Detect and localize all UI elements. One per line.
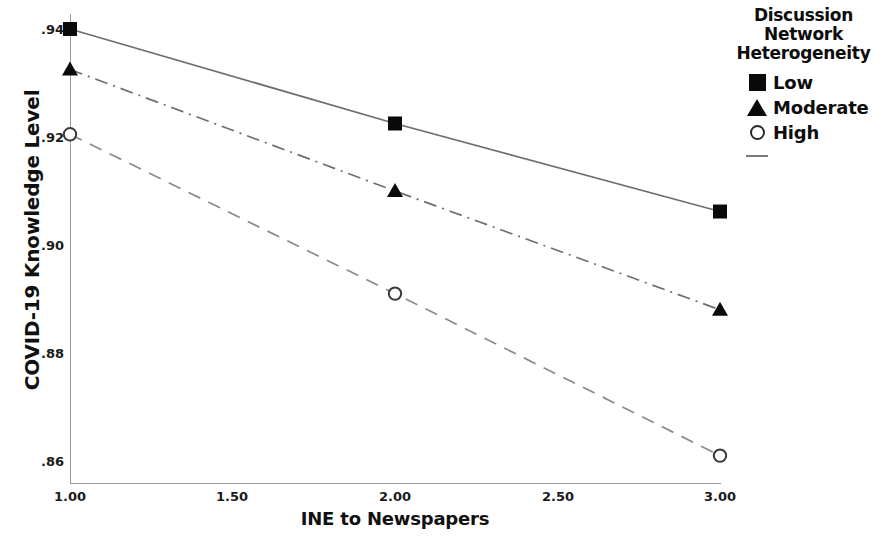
data-point-marker-high — [714, 449, 726, 461]
legend-title-line-3: Heterogeneity — [722, 44, 885, 63]
open-circle-icon — [744, 125, 770, 140]
data-point-marker-moderate — [712, 302, 728, 316]
legend-item-line-sample — [744, 145, 885, 167]
legend-title-line-2: Network — [722, 25, 885, 44]
line-sample-icon — [744, 155, 770, 157]
data-point-marker-moderate — [387, 183, 403, 197]
legend-items: Low Moderate High — [722, 70, 885, 167]
legend-label: Moderate — [770, 97, 869, 118]
data-point-marker-low — [63, 22, 77, 36]
legend-label: Low — [770, 72, 813, 93]
data-point-marker-low — [713, 205, 727, 219]
data-point-marker-moderate — [62, 62, 78, 76]
filled-triangle-icon — [744, 99, 770, 116]
legend-item-low: Low — [744, 70, 885, 95]
data-point-marker-high — [64, 128, 76, 140]
legend-label: High — [770, 122, 819, 143]
filled-square-icon — [744, 74, 770, 91]
data-point-marker-low — [388, 117, 402, 131]
chart-legend: Discussion Network Heterogeneity Low Mod… — [722, 6, 885, 167]
legend-title: Discussion Network Heterogeneity — [722, 6, 885, 63]
legend-item-moderate: Moderate — [744, 95, 885, 120]
legend-title-line-1: Discussion — [722, 6, 885, 25]
data-point-marker-high — [389, 287, 401, 299]
chart-figure: COVID-19 Knowledge Level .94 .92 .90 .88… — [0, 0, 885, 543]
legend-item-high: High — [744, 120, 885, 145]
